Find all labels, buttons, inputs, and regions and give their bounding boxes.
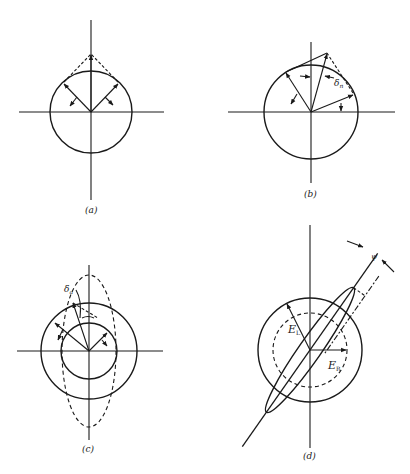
rotation-arrow-left	[291, 94, 297, 104]
vector-left	[64, 84, 91, 112]
delta-arrow-right	[325, 76, 334, 78]
delta-n-label: δn	[334, 78, 343, 89]
polarization-diagram: (a) δn (b) δa (c)	[0, 0, 410, 474]
vector-right	[311, 95, 353, 112]
caption-c: (c)	[82, 444, 95, 454]
dashed-left	[64, 54, 91, 82]
ellipse-top-rule	[354, 288, 365, 296]
dashed-right	[91, 54, 118, 82]
psi-arrow-right	[382, 260, 394, 272]
vector-resultant	[311, 54, 327, 112]
caption-a: (a)	[85, 205, 98, 215]
delta-a-label: δa	[64, 284, 73, 295]
rotation-arrow-right	[105, 97, 113, 105]
delta-arrow-left	[300, 76, 310, 77]
vector-right	[91, 84, 118, 112]
rotation-arrow-left	[70, 97, 77, 106]
panel-c	[17, 265, 163, 440]
inner-arc-marker	[82, 317, 94, 319]
caption-d: (d)	[303, 451, 316, 461]
panel-d	[233, 225, 394, 455]
dashed-top	[286, 53, 327, 72]
psi-label: ψ	[371, 252, 378, 261]
psi-arrow-left	[347, 241, 363, 247]
ER-label: ER	[327, 359, 341, 372]
rotation-arrow-right	[102, 340, 107, 346]
panel-b	[228, 42, 395, 183]
vector-left	[286, 73, 311, 112]
panel-a	[19, 20, 164, 200]
caption-b: (b)	[304, 189, 317, 199]
